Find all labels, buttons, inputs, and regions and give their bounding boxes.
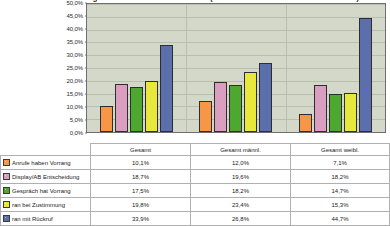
bar[interactable] — [145, 81, 158, 132]
bar[interactable] — [314, 85, 327, 132]
chart-container: Anrufe bei Vorrang bzw. Rückruf nach Ges… — [0, 0, 389, 223]
legend-color-swatch-icon — [3, 173, 10, 180]
y-axis-tick-label: 35,0% — [66, 39, 83, 45]
data-value-cell: 14,7% — [291, 184, 390, 198]
bar[interactable] — [359, 18, 372, 132]
y-axis-tick-label: 30,0% — [66, 52, 83, 58]
y-axis-tick-label: 5,0% — [70, 117, 83, 123]
data-value-cell: 15,3% — [291, 198, 390, 212]
bar-group — [286, 4, 385, 132]
data-value-cell: 33,9% — [91, 212, 191, 226]
bar[interactable] — [199, 101, 212, 132]
y-axis-tick-label: 40,0% — [66, 26, 83, 32]
bar[interactable] — [160, 45, 173, 132]
legend-item[interactable]: Gespräch hat Vorrang — [1, 184, 91, 198]
y-axis-tick-label: 15,0% — [66, 91, 83, 97]
data-value-cell: 19,6% — [191, 170, 291, 184]
data-value-cell: 7,1% — [291, 156, 390, 170]
bar[interactable] — [214, 82, 227, 132]
legend-color-swatch-icon — [3, 201, 10, 208]
series-label: ran mit Rückruf — [12, 216, 53, 222]
y-axis-tick-label: 10,0% — [66, 104, 83, 110]
data-value-cell: 23,4% — [191, 198, 291, 212]
bar[interactable] — [244, 72, 257, 132]
table-row: ran mit Rückruf33,9%26,8%44,7% — [1, 212, 390, 226]
y-axis-tick-label: 50,0% — [66, 0, 83, 6]
legend-item[interactable]: ran mit Rückruf — [1, 212, 91, 226]
bar[interactable] — [329, 94, 342, 132]
legend-item[interactable]: Anrufe haben Vorrang — [1, 156, 91, 170]
data-value-cell: 18,7% — [91, 170, 191, 184]
y-axis-tick-label: 0,0% — [70, 130, 83, 136]
bar[interactable] — [100, 106, 113, 132]
table-row: Gespräch hat Vorrang17,5%18,2%14,7% — [1, 184, 390, 198]
bar[interactable] — [344, 93, 357, 132]
bar[interactable] — [229, 85, 242, 132]
data-value-cell: 17,5% — [91, 184, 191, 198]
data-value-cell: 18,2% — [291, 170, 390, 184]
y-axis-tick-label: 45,0% — [66, 13, 83, 19]
column-header: Gesamt männl. — [191, 144, 291, 156]
bar-group — [186, 4, 285, 132]
chart-title: Anrufe bei Vorrang bzw. Rückruf nach Ges… — [0, 0, 389, 2]
data-value-cell: 44,7% — [291, 212, 390, 226]
bar-group — [87, 4, 186, 132]
series-label: ran bei Zustimmung — [12, 202, 65, 208]
data-value-cell: 18,2% — [191, 184, 291, 198]
table-row: Anrufe haben Vorrang10,1%12,0%7,1% — [1, 156, 390, 170]
data-value-cell: 19,8% — [91, 198, 191, 212]
table-header-row: GesamtGesamt männl.Gesamt weibl. — [1, 144, 390, 156]
bar[interactable] — [130, 87, 143, 132]
series-label: Display/AB Entscheidung — [12, 174, 79, 180]
data-value-cell: 26,8% — [191, 212, 291, 226]
data-value-cell: 12,0% — [191, 156, 291, 170]
table-corner-cell — [1, 144, 91, 156]
legend-item[interactable]: Display/AB Entscheidung — [1, 170, 91, 184]
bar[interactable] — [259, 63, 272, 132]
data-table: GesamtGesamt männl.Gesamt weibl.Anrufe h… — [0, 143, 390, 226]
legend-color-swatch-icon — [3, 159, 10, 166]
series-label: Anrufe haben Vorrang — [12, 160, 71, 166]
series-label: Gespräch hat Vorrang — [12, 188, 71, 194]
column-header: Gesamt weibl. — [291, 144, 390, 156]
bar[interactable] — [299, 114, 312, 132]
plot-wrapper: 0,0%5,0%10,0%15,0%20,0%25,0%30,0%35,0%40… — [0, 3, 389, 139]
data-value-cell: 10,1% — [91, 156, 191, 170]
y-axis: 0,0%5,0%10,0%15,0%20,0%25,0%30,0%35,0%40… — [52, 3, 85, 139]
legend-color-swatch-icon — [3, 187, 10, 194]
y-axis-tick-label: 20,0% — [66, 78, 83, 84]
column-header: Gesamt — [91, 144, 191, 156]
plot-area — [86, 3, 386, 133]
legend-item[interactable]: ran bei Zustimmung — [1, 198, 91, 212]
table-row: ran bei Zustimmung19,8%23,4%15,3% — [1, 198, 390, 212]
bar[interactable] — [115, 84, 128, 132]
legend-color-swatch-icon — [3, 215, 10, 222]
table-row: Display/AB Entscheidung18,7%19,6%18,2% — [1, 170, 390, 184]
y-axis-tick-label: 25,0% — [66, 65, 83, 71]
